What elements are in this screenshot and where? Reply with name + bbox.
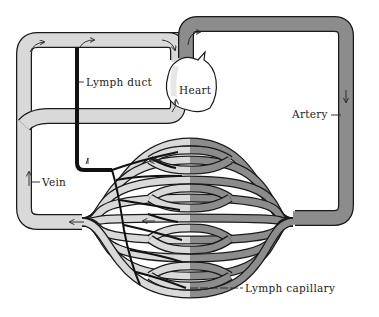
circulatory-diagram: Lymph duct Heart Artery Vein Lymph capil… bbox=[0, 0, 379, 317]
label-lymph-capillary: Lymph capillary bbox=[245, 282, 335, 294]
label-heart: Heart bbox=[179, 84, 212, 96]
label-vein: Vein bbox=[41, 176, 66, 188]
label-lymph-duct: Lymph duct bbox=[86, 76, 153, 88]
label-artery: Artery bbox=[291, 108, 328, 120]
capillary-bed bbox=[82, 142, 293, 294]
lymph-duct-arrow bbox=[86, 158, 88, 164]
